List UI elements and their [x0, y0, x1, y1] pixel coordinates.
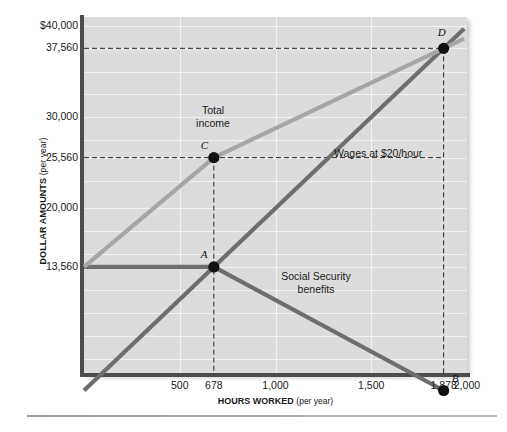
y-axis-tick-labels: $40,00037,56030,00025,56020,00013,560 — [18, 0, 78, 432]
y-axis-tick-label: 13,560 — [18, 260, 78, 272]
annotation-total-income-line2: income — [178, 117, 248, 130]
y-axis-tick-label: 20,000 — [18, 201, 78, 213]
x-axis-tick-label: 678 — [205, 379, 223, 391]
plot-area — [84, 17, 467, 375]
y-axis-tick-label: 25,560 — [18, 151, 78, 163]
annotation-social-security: Social Security benefits — [268, 270, 364, 296]
x-axis-tick-label: 500 — [171, 379, 189, 391]
x-axis-title-main: HOURS WORKED — [218, 396, 294, 406]
gridline-vertical — [371, 17, 372, 375]
gridline-vertical — [276, 17, 277, 375]
data-point-label-A: A — [201, 248, 208, 260]
plot-gridlines — [84, 17, 467, 375]
gridline-vertical — [180, 17, 181, 375]
y-axis-line — [80, 15, 84, 377]
y-axis-tick-label: $40,000 — [18, 19, 78, 31]
x-axis-title: HOURS WORKED (per year) — [84, 396, 467, 406]
x-axis-tick-label: 1,000 — [262, 379, 288, 391]
annotation-total-income-line1: Total — [178, 104, 248, 117]
x-axis-tick-label: 1,500 — [358, 379, 384, 391]
annotation-social-security-line2: benefits — [268, 283, 364, 296]
y-axis-tick-label: 30,000 — [18, 110, 78, 122]
annotation-social-security-line1: Social Security — [268, 270, 364, 283]
annotation-total-income: Total income — [178, 104, 248, 130]
y-axis-tick-label: 37,560 — [18, 41, 78, 53]
bottom-divider — [27, 415, 497, 417]
x-axis-title-sub: (per year) — [296, 396, 333, 406]
data-point-label-D: D — [438, 26, 446, 38]
x-axis-line — [80, 373, 470, 377]
x-axis-tick-label: 1,878 — [430, 379, 456, 391]
data-point-label-C: C — [201, 139, 208, 151]
x-axis-tick-label: 2,000 — [454, 379, 480, 391]
chart-figure: DOLLAR AMOUNTS (per year) $40,00037,5603… — [0, 0, 507, 432]
